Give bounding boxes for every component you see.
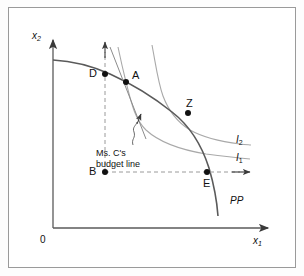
point-Z [185, 110, 191, 116]
x-axis-label: x1 [253, 236, 262, 247]
point-E [204, 169, 210, 175]
figure-container: x2 x1 0 D A Z B E I2 I1 PP Ms. C's budge… [0, 0, 304, 276]
indifference-curve-2-label: I2 [236, 135, 243, 146]
budget-line [110, 47, 146, 139]
y-axis-label: x2 [32, 31, 41, 42]
point-D [102, 71, 108, 77]
annotation-line-1: Ms. C's [96, 148, 140, 159]
origin-label: 0 [40, 235, 46, 245]
point-label-E: E [203, 178, 210, 189]
point-label-A: A [132, 70, 139, 81]
pp-curve [53, 60, 218, 216]
indifference-curve-2 [152, 45, 251, 145]
annotation-line-2: budget line [96, 159, 140, 170]
indifference-curve-1-label: I1 [236, 153, 243, 164]
pp-curve-label: PP [230, 196, 243, 206]
point-label-D: D [89, 68, 97, 79]
point-A [123, 79, 129, 85]
point-label-Z: Z [186, 98, 193, 109]
budget-line-annotation: Ms. C's budget line [96, 148, 140, 171]
annotation-leader [133, 122, 137, 145]
